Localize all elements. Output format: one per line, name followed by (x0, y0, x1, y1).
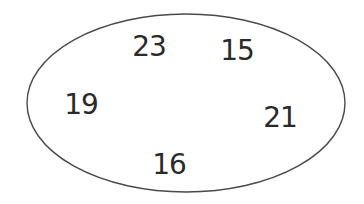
set-element-23: 23 (132, 33, 166, 61)
set-element-21: 21 (263, 104, 297, 132)
set-diagram: 23 15 19 21 16 (0, 0, 364, 204)
set-element-16: 16 (152, 151, 186, 179)
set-element-15: 15 (220, 37, 254, 65)
set-element-19: 19 (64, 91, 98, 119)
